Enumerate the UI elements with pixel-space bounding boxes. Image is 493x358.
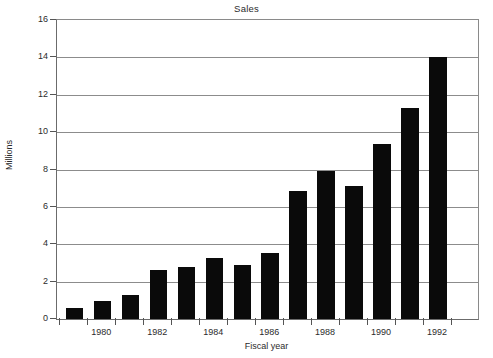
gridline (57, 57, 478, 58)
bar (234, 265, 251, 319)
x-axis-tick-label: 1980 (76, 327, 126, 337)
x-axis-tick (227, 318, 228, 325)
bar (317, 171, 334, 319)
bar (122, 295, 139, 319)
bar (66, 308, 83, 319)
x-axis-tick-label: 1988 (300, 327, 350, 337)
y-axis-tick-label: 2 (4, 276, 48, 286)
x-axis-tick (367, 318, 368, 325)
bar (206, 258, 223, 319)
x-axis-tick (143, 318, 144, 325)
x-axis-title: Fiscal year (56, 341, 477, 351)
x-axis-tick (339, 318, 340, 325)
x-axis-tick-label: 1986 (244, 327, 294, 337)
y-axis-tick-label: 6 (4, 201, 48, 211)
chart-figure: Sales 0246810121416 Millions 19801982198… (0, 0, 493, 358)
plot-area (56, 19, 479, 320)
bar (373, 144, 390, 319)
x-axis-tick (59, 318, 60, 325)
chart-title: Sales (0, 3, 493, 14)
y-axis-tick-label: 12 (4, 89, 48, 99)
bar (178, 267, 195, 319)
x-axis-tick-label: 1992 (412, 327, 462, 337)
y-axis-tick-label: 14 (4, 51, 48, 61)
gridline (57, 95, 478, 96)
bar (261, 253, 278, 319)
x-axis-tick-label: 1982 (132, 327, 182, 337)
y-axis-tick-label: 16 (4, 14, 48, 24)
x-axis-tick (87, 318, 88, 325)
bar (345, 186, 362, 319)
x-axis-tick (255, 318, 256, 325)
y-axis-title: Millions (4, 110, 14, 200)
bar (401, 108, 418, 319)
x-axis-tick (199, 318, 200, 325)
bar (429, 57, 446, 319)
y-axis-tick-label: 4 (4, 238, 48, 248)
x-axis-tick (115, 318, 116, 325)
y-axis-tick-label: 0 (4, 313, 48, 323)
x-axis-tick-label: 1990 (356, 327, 406, 337)
bar (289, 191, 306, 319)
x-axis-tick-label: 1984 (188, 327, 238, 337)
x-axis-tick (311, 318, 312, 325)
bar (150, 270, 167, 319)
x-axis-tick (423, 318, 424, 325)
x-axis-tick (283, 318, 284, 325)
bar (94, 301, 111, 319)
x-axis-tick (395, 318, 396, 325)
x-axis-tick (451, 318, 452, 325)
x-axis-tick (171, 318, 172, 325)
